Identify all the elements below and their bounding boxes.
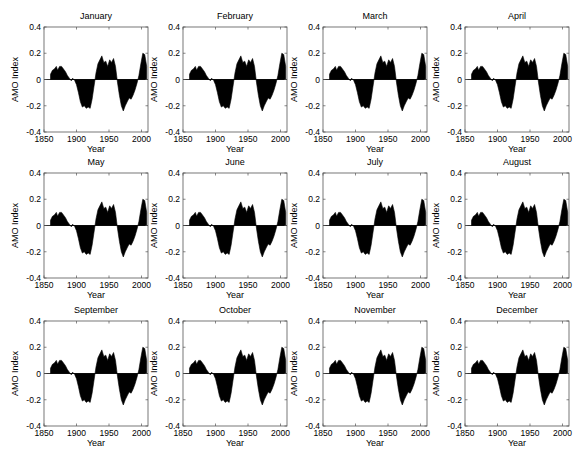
amo-area [330,53,426,111]
x-tick-label: 1900 [67,280,86,290]
x-tick-label: 1950 [239,280,258,290]
y-tick-label: 0.2 [308,342,320,352]
y-tick-label: 0.2 [450,342,462,352]
y-axis-label: AMO Index [431,56,441,102]
x-tick-label: 1950 [100,134,119,144]
y-axis-label: AMO Index [10,56,20,102]
y-tick-label: 0 [175,221,180,231]
y-tick-label: 0.2 [168,48,180,58]
panel-august: August-0.4-0.200.20.41850190019502000Yea… [431,157,572,300]
x-tick-label: 1950 [239,428,258,438]
x-tick-label: 1900 [206,134,225,144]
y-tick-label: 0.2 [168,194,180,204]
x-tick-label: 1900 [346,280,365,290]
y-tick-label: 0.4 [29,316,41,326]
amo-area [51,53,147,111]
panel-april: April-0.4-0.200.20.41850190019502000Year… [431,11,572,154]
y-axis-label: AMO Index [10,350,20,396]
panel-march: March-0.4-0.200.20.41850190019502000Year… [289,11,430,154]
x-tick-label: 2000 [411,428,430,438]
panel-title: March [362,11,387,21]
y-tick-label: -0.2 [447,395,462,405]
y-tick-label: -0.2 [26,101,41,111]
amo-area [51,347,147,405]
y-tick-label: 0.2 [308,194,320,204]
y-tick-label: 0.4 [308,22,320,32]
y-tick-label: -0.2 [447,101,462,111]
x-axis-label: Year [366,144,384,154]
x-axis-label: Year [508,290,526,300]
x-tick-label: 2000 [271,280,290,290]
y-tick-label: 0 [36,221,41,231]
figure-grid: January-0.4-0.200.20.41850190019502000Ye… [0,0,581,458]
y-tick-label: -0.2 [26,395,41,405]
x-axis-label: Year [508,144,526,154]
y-tick-label: -0.2 [305,395,320,405]
y-axis-label: AMO Index [10,202,20,248]
x-tick-label: 2000 [411,280,430,290]
y-axis-label: AMO Index [149,202,159,248]
y-tick-label: 0.2 [450,48,462,58]
x-tick-label: 1900 [206,428,225,438]
y-axis-label: AMO Index [149,350,159,396]
y-tick-label: 0.2 [29,194,41,204]
panel-november: November-0.4-0.200.20.41850190019502000Y… [289,305,430,448]
panel-title: May [87,157,105,167]
panel-july: July-0.4-0.200.20.41850190019502000YearA… [289,157,430,300]
panel-title: January [80,11,113,21]
y-axis-label: AMO Index [431,202,441,248]
panel-title: August [503,157,532,167]
x-tick-label: 1900 [488,280,507,290]
y-tick-label: -0.2 [305,101,320,111]
x-tick-label: 1900 [488,428,507,438]
x-tick-label: 1850 [456,134,475,144]
amo-area [190,199,286,257]
x-tick-label: 1850 [456,428,475,438]
x-axis-label: Year [87,438,105,448]
x-tick-label: 1850 [35,280,54,290]
y-tick-label: 0.4 [168,22,180,32]
x-axis-label: Year [508,438,526,448]
panel-title: April [508,11,526,21]
y-tick-label: 0.2 [450,194,462,204]
x-tick-label: 1950 [100,280,119,290]
panel-june: June-0.4-0.200.20.41850190019502000YearA… [149,157,290,300]
y-tick-label: 0 [457,369,462,379]
x-tick-label: 1950 [379,428,398,438]
y-tick-label: 0 [175,369,180,379]
x-tick-label: 1950 [100,428,119,438]
y-tick-label: 0.4 [29,22,41,32]
y-tick-label: 0.4 [450,316,462,326]
x-tick-label: 1850 [35,134,54,144]
y-tick-label: -0.2 [26,247,41,257]
amo-area [472,347,568,405]
x-tick-label: 2000 [411,134,430,144]
y-tick-label: -0.2 [165,395,180,405]
x-tick-label: 1900 [346,134,365,144]
y-tick-label: 0.4 [29,168,41,178]
x-tick-label: 2000 [132,428,151,438]
amo-area [472,53,568,111]
panel-december: December-0.4-0.200.20.41850190019502000Y… [431,305,572,448]
panel-title: February [217,11,254,21]
amo-area [330,347,426,405]
x-axis-label: Year [226,290,244,300]
y-axis-label: AMO Index [289,202,299,248]
panel-title: November [354,305,396,315]
x-tick-label: 1850 [35,428,54,438]
y-tick-label: 0 [36,369,41,379]
y-tick-label: 0.4 [168,168,180,178]
panel-title: December [496,305,538,315]
panel-september: September-0.4-0.200.20.41850190019502000… [10,305,151,448]
y-tick-label: 0 [175,75,180,85]
x-tick-label: 2000 [132,280,151,290]
amo-area [330,199,426,257]
x-tick-label: 1950 [521,280,540,290]
panel-october: October-0.4-0.200.20.41850190019502000Ye… [149,305,290,448]
x-tick-label: 1950 [239,134,258,144]
x-tick-label: 2000 [271,134,290,144]
x-tick-label: 2000 [553,134,572,144]
x-tick-label: 2000 [553,280,572,290]
amo-area [51,199,147,257]
x-tick-label: 1950 [521,134,540,144]
